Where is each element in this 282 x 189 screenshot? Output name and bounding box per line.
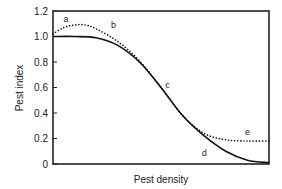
curve-annotations: abcde [63,14,249,158]
solid-curve [53,36,269,162]
y-axis-label: Pest index [14,65,25,112]
y-tick-label: 0.2 [34,133,48,144]
annotation-c: c [165,80,170,90]
annotation-a: a [63,14,68,24]
annotation-b: b [111,20,116,30]
y-tick-label: 0.8 [34,57,48,68]
pest-index-chart: 00.20.40.60.81.01.2 abcde Pest density P… [0,0,282,189]
y-tick-label: 0.6 [34,82,48,93]
dotted-curve [53,25,269,142]
y-tick-label: 0.4 [34,108,48,119]
annotation-e: e [245,127,250,137]
series-lines [53,25,269,163]
y-tick-label: 1.2 [34,6,48,17]
x-axis-label: Pest density [134,174,188,185]
y-tick-label: 0 [42,159,48,170]
y-tick-label: 1.0 [34,31,48,42]
annotation-d: d [202,148,207,158]
